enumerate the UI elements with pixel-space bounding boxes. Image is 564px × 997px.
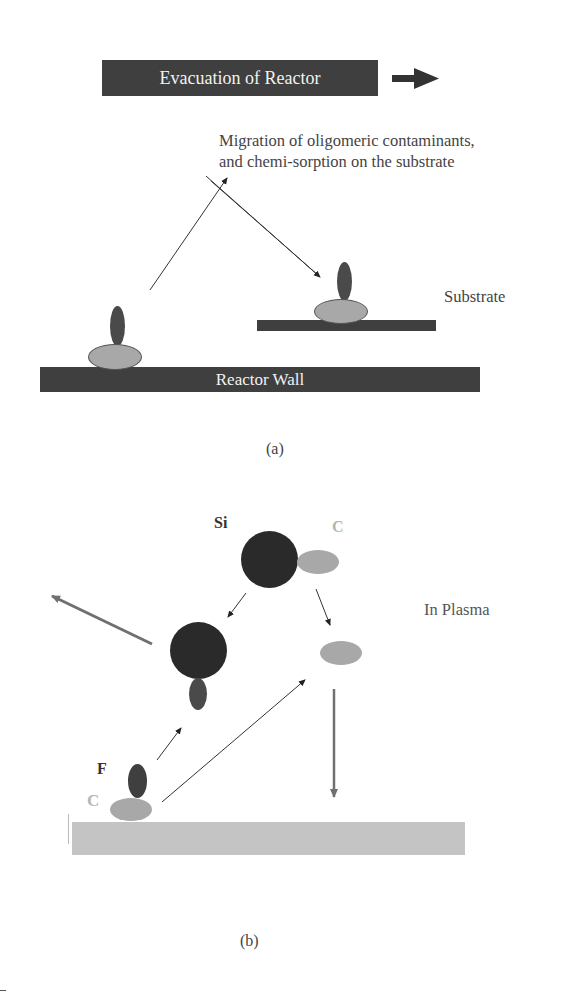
f-up-arrow	[157, 728, 181, 760]
evacuation-arrow-icon	[392, 68, 439, 89]
split-right-arrow	[316, 589, 330, 625]
desorb-arrow	[52, 596, 152, 644]
split-left-arrow	[228, 593, 246, 617]
arrows-layer	[0, 0, 564, 997]
migration-up-arrow	[150, 178, 227, 290]
c-up-arrow	[162, 680, 305, 802]
